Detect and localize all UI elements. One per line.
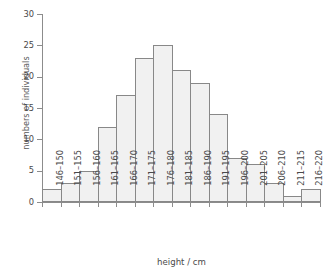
- y-tick-label: 5: [29, 165, 34, 175]
- x-tick-label: 166–170: [129, 150, 139, 210]
- x-tick-label: 161–165: [110, 150, 120, 210]
- x-tick-label: 196–200: [240, 150, 250, 210]
- x-tick: [42, 203, 43, 207]
- x-tick-label: 186–190: [203, 150, 213, 210]
- x-tick-label: 201–205: [259, 150, 269, 210]
- x-tick-label: 181–185: [184, 150, 194, 210]
- x-tick-label: 206–210: [277, 150, 287, 210]
- y-tick-label: 0: [29, 197, 34, 207]
- x-tick-label: 216–220: [314, 150, 324, 210]
- x-tick-label: 176–180: [166, 150, 176, 210]
- histogram-chart: numbers of individuals 051015202530 146–…: [0, 0, 332, 274]
- y-tick-label: 20: [23, 71, 34, 81]
- y-tick-label: 15: [23, 103, 34, 113]
- x-tick-label: 151–155: [73, 150, 83, 210]
- x-tick-label: 171–175: [147, 150, 157, 210]
- x-tick-label: 146–150: [55, 150, 65, 210]
- y-tick-label: 25: [23, 40, 34, 50]
- x-tick-label: 191–195: [221, 150, 231, 210]
- y-tick-label: 10: [23, 134, 34, 144]
- x-tick-label: 211–215: [296, 150, 306, 210]
- y-tick-label: 30: [23, 9, 34, 19]
- chart-title: [110, 0, 240, 2]
- x-axis-title: height / cm: [42, 257, 321, 267]
- x-tick-label: 156–160: [92, 150, 102, 210]
